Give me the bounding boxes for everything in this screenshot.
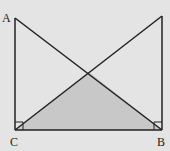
label-c: C <box>10 135 18 149</box>
geometry-diagram: A C B <box>0 0 170 151</box>
label-a: A <box>2 11 11 25</box>
label-b: B <box>157 135 165 149</box>
shaded-triangle <box>15 72 162 130</box>
